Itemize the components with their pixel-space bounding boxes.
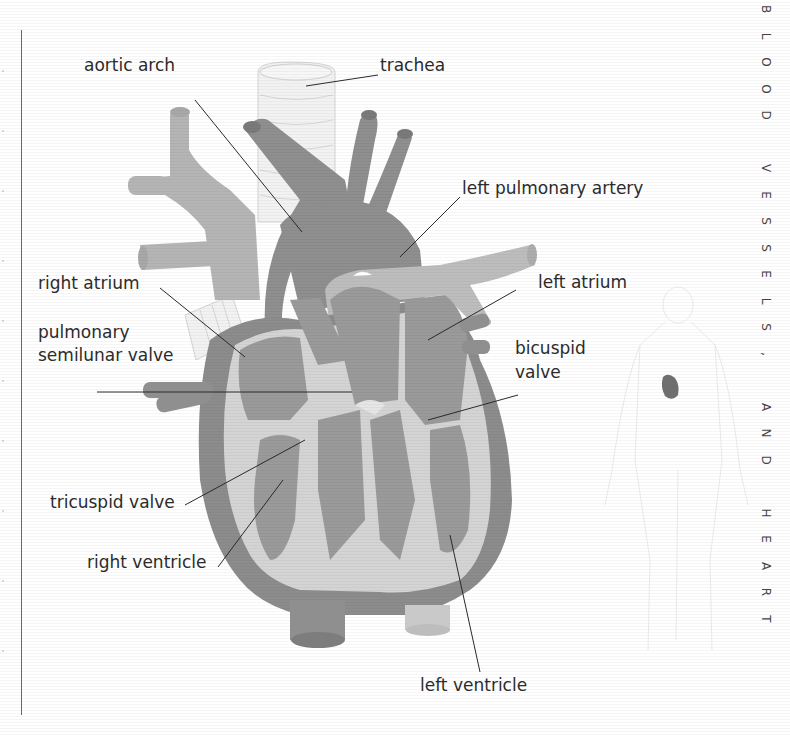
label-right-atrium: right atrium [38, 273, 139, 293]
label-pulmonary-semilunar-valve-2: semilunar valve [38, 345, 173, 365]
label-bicuspid-valve-2: valve [515, 362, 561, 382]
label-pulmonary-semilunar-valve-1: pulmonary [38, 322, 130, 342]
heart-body [0, 0, 790, 735]
label-bicuspid-valve-1: bicuspid [515, 338, 586, 358]
label-left-ventricle: left ventricle [420, 675, 527, 695]
heart-diagram [0, 0, 790, 735]
label-aortic-arch: aortic arch [84, 55, 175, 75]
label-right-ventricle: right ventricle [87, 552, 207, 572]
label-left-atrium: left atrium [538, 272, 627, 292]
label-left-pulmonary-artery: left pulmonary artery [462, 178, 643, 198]
label-trachea: trachea [380, 55, 445, 75]
label-tricuspid-valve: tricuspid valve [50, 492, 175, 512]
